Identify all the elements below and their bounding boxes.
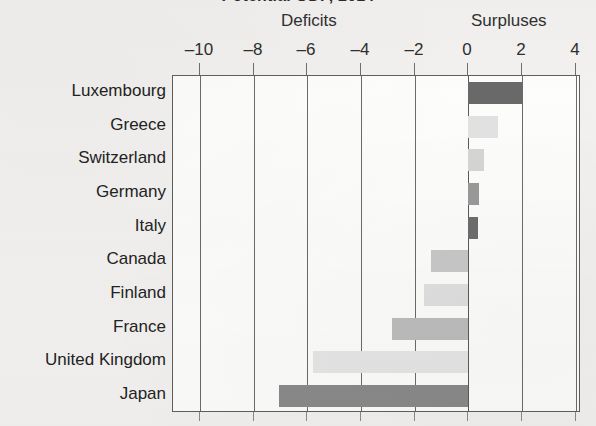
category-label-luxembourg: Luxembourg [0,81,166,101]
x-tick-label-neg2: –2 [392,40,436,60]
chart-title: Potential GDP, 2014 [0,0,596,5]
category-label-germany: Germany [0,182,166,202]
x-tick-mark-bottom-neg4 [360,412,361,421]
x-tick-mark-neg4 [360,63,361,75]
x-tick-label-0: 0 [445,40,489,60]
potential-gdp-bar-chart: Potential GDP, 2014 Deficits Surpluses –… [0,0,596,426]
gridline-neg6 [307,76,308,411]
gridline-neg8 [254,76,255,411]
surpluses-section-label: Surpluses [471,11,547,31]
x-tick-label-neg10: –10 [177,40,221,60]
x-tick-mark-neg8 [253,63,254,75]
gridline-4 [576,76,577,411]
bar-switzerland [468,149,484,171]
bar-germany [468,183,479,205]
x-tick-label-neg4: –4 [338,40,382,60]
category-label-greece: Greece [0,115,166,135]
category-label-switzerland: Switzerland [0,148,166,168]
bar-italy [468,217,477,239]
x-tick-mark-0 [467,63,468,75]
x-tick-mark-4 [575,63,576,75]
deficits-section-label: Deficits [281,11,337,31]
x-tick-label-neg8: –8 [231,40,275,60]
x-tick-mark-bottom-0 [467,412,468,421]
bar-finland [424,284,468,306]
category-label-united-kingdom: United Kingdom [0,350,166,370]
x-tick-mark-neg2 [414,63,415,75]
plot-area [172,75,580,412]
x-tick-label-2: 2 [499,40,543,60]
x-tick-mark-bottom-4 [575,412,576,421]
x-tick-mark-bottom-neg8 [253,412,254,421]
bar-united-kingdom [313,351,469,373]
category-label-france: France [0,317,166,337]
category-label-italy: Italy [0,216,166,236]
x-tick-mark-bottom-neg6 [306,412,307,421]
x-tick-mark-bottom-neg2 [414,412,415,421]
gridline-2 [522,76,523,411]
x-tick-mark-neg10 [199,63,200,75]
x-tick-mark-2 [521,63,522,75]
x-tick-mark-bottom-2 [521,412,522,421]
x-tick-mark-neg6 [306,63,307,75]
bar-greece [468,116,498,138]
bar-japan [279,385,468,407]
category-label-japan: Japan [0,384,166,404]
category-label-finland: Finland [0,283,166,303]
gridline-neg10 [200,76,201,411]
category-axis-labels: LuxembourgGreeceSwitzerlandGermanyItalyC… [0,75,166,412]
x-tick-label-4: 4 [553,40,596,60]
bar-luxembourg [468,82,522,104]
x-tick-label-neg6: –6 [284,40,328,60]
category-label-canada: Canada [0,249,166,269]
x-tick-mark-bottom-neg10 [199,412,200,421]
bar-canada [431,250,469,272]
bar-france [392,318,469,340]
